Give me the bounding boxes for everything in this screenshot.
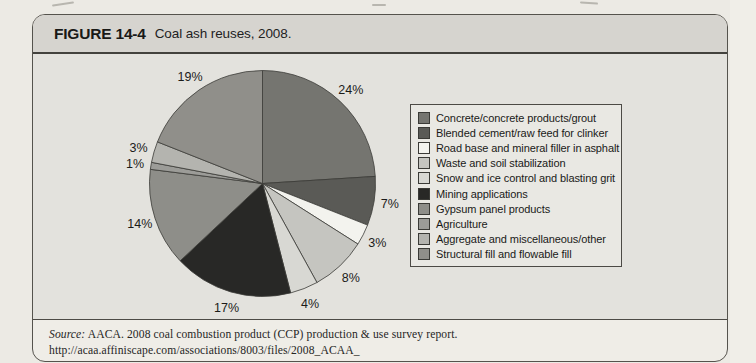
legend-swatch [418,248,430,260]
legend-label: Structural fill and flowable fill [436,248,571,260]
chart-legend: Concrete/concrete products/groutBlended … [410,104,622,267]
legend-swatch [418,203,430,215]
pie-slice-percent-label: 3% [130,141,148,155]
legend-item: Structural fill and flowable fill [418,247,614,262]
legend-label: Gypsum panel products [436,203,550,215]
legend-swatch [418,142,430,154]
legend-swatch [418,218,430,230]
pie-slice-percent-label: 4% [301,297,319,311]
legend-item: Gypsum panel products [418,201,614,216]
pie-slice-percent-label: 1% [126,157,144,171]
legend-label: Mining applications [436,188,528,200]
legend-swatch [418,172,430,184]
legend-item: Mining applications [418,186,614,201]
figure-number: FIGURE 14-4 [54,25,146,43]
legend-item: Concrete/concrete products/grout [418,110,614,125]
page-margin-strip [730,0,756,363]
figure-title-bar: FIGURE 14-4 Coal ash reuses, 2008. [33,15,727,54]
legend-label: Aggregate and miscellaneous/other [436,233,606,245]
legend-label: Waste and soil stabilization [436,157,565,169]
legend-label: Snow and ice control and blasting grit [436,172,615,184]
pie-slice-percent-label: 24% [338,83,363,97]
print-bleed-mark [580,1,598,4]
chart-panel: 24%7%3%8%4%17%14%1%3%19% Concrete/concre… [33,54,727,320]
legend-swatch [418,188,430,200]
legend-label: Road base and mineral filler in asphalt [436,142,619,154]
source-citation: Source: AACA. 2008 coal combustion produ… [33,320,727,362]
legend-label: Blended cement/raw feed for clinker [436,127,608,139]
legend-item: Snow and ice control and blasting grit [418,171,614,186]
legend-item: Waste and soil stabilization [418,156,614,171]
legend-item: Road base and mineral filler in asphalt [418,140,614,155]
source-prefix: Source: [49,328,85,341]
source-line1: AACA. 2008 coal combustion product (CCP)… [49,328,457,357]
pie-slice-percent-label: 3% [368,236,386,250]
legend-item: Aggregate and miscellaneous/other [418,232,614,247]
print-bleed-mark [372,4,386,6]
source-line2: CCP_Survey_Report_FINAL_100509.pdf. Acce… [49,360,386,362]
figure-box: FIGURE 14-4 Coal ash reuses, 2008. 24%7%… [32,14,728,362]
pie-slice-percent-label: 14% [127,217,152,231]
legend-item: Agriculture [418,216,614,231]
print-bleed-mark [52,1,74,6]
pie-slice-percent-label: 7% [381,197,399,211]
legend-item: Blended cement/raw feed for clinker [418,125,614,140]
legend-swatch [418,112,430,124]
legend-swatch [418,127,430,139]
figure-caption: Coal ash reuses, 2008. [155,26,292,41]
legend-label: Agriculture [436,218,487,230]
pie-slice-percent-label: 8% [342,271,360,285]
book-page-background: FIGURE 14-4 Coal ash reuses, 2008. 24%7%… [0,0,756,363]
legend-label: Concrete/concrete products/grout [436,112,596,124]
legend-swatch [418,233,430,245]
pie-slice-percent-label: 19% [177,70,202,84]
pie-chart: 24%7%3%8%4%17%14%1%3%19% [33,54,726,319]
pie-slice-percent-label: 17% [214,301,239,315]
legend-swatch [418,157,430,169]
